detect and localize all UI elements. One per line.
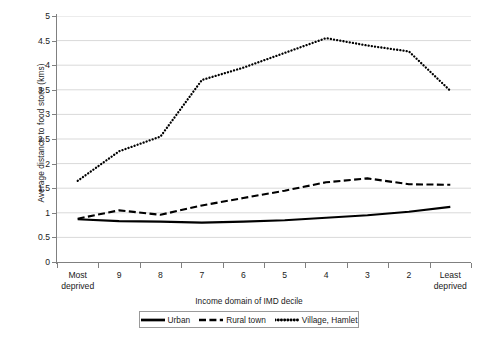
y-tick-mark [52,65,57,66]
y-tick-mark [52,164,57,165]
chart-legend: UrbanRural townVillage, Hamlet [139,311,359,328]
legend-item-label: Urban [168,315,191,325]
x-tick-label: 3 [347,270,388,281]
x-tick-label-line1: 3 [365,270,370,280]
y-tick-mark [52,90,57,91]
x-tick-label: Leastdeprived [430,270,471,291]
y-tick-mark [52,41,57,42]
x-tick-mark [471,263,472,268]
gridlines [57,16,471,237]
x-axis-title: Income domain of IMD decile [0,296,498,306]
x-tick-mark [347,263,348,268]
x-tick-label-line1: 4 [324,270,329,280]
x-tick-label-line2: deprived [57,281,98,292]
legend-item-urban[interactable]: Urban [141,315,191,325]
x-tick-label-line1: 6 [241,270,246,280]
y-tick-mark [52,16,57,17]
legend-swatch-solid-icon [141,316,165,324]
plot-area [57,16,471,262]
y-tick-label: 0 [22,257,50,267]
x-tick-label-line1: 9 [117,270,122,280]
x-tick-mark [430,263,431,268]
legend-item-label: Rural town [226,315,266,325]
x-tick-label-line1: Least [440,270,461,280]
y-tick-mark [52,139,57,140]
legend-item-rural-town[interactable]: Rural town [199,315,266,325]
y-tick-label: 5 [22,11,50,21]
y-tick-label: 1 [22,208,50,218]
y-tick-mark [52,213,57,214]
x-tick-label: 6 [223,270,264,281]
y-tick-mark [52,114,57,115]
x-tick-mark [57,263,58,268]
x-tick-label: 4 [305,270,346,281]
x-tick-label: 9 [98,270,139,281]
x-tick-mark [305,263,306,268]
series-lines [78,38,451,223]
series-line-urban [78,207,451,223]
chart-plot-svg [57,16,471,262]
y-tick-label: 0.5 [22,232,50,242]
x-tick-mark [98,263,99,268]
x-tick-label: 7 [181,270,222,281]
y-tick-label: 4.5 [22,36,50,46]
y-tick-label: 2 [22,159,50,169]
chart-figure: Average distance to food store (kms) 54.… [0,0,498,341]
x-tick-label-line1: Most [68,270,87,280]
y-tick-label: 3 [22,109,50,119]
y-tick-label: 2.5 [22,134,50,144]
x-tick-mark [388,263,389,268]
legend-swatch-dashed-icon [199,316,223,324]
x-tick-label: 8 [140,270,181,281]
x-tick-mark [264,263,265,268]
x-tick-label-line1: 2 [406,270,411,280]
x-tick-label-line1: 8 [158,270,163,280]
x-tick-label: 2 [388,270,429,281]
legend-item-label: Village, Hamlet [302,315,358,325]
y-tick-mark [52,237,57,238]
x-tick-mark [140,263,141,268]
x-tick-label: Mostdeprived [57,270,98,291]
legend-item-village-hamlet[interactable]: Village, Hamlet [275,315,358,325]
y-axis-tick-labels: 54.543.532.521.510.50 [20,0,50,341]
y-tick-label: 4 [22,60,50,70]
x-tick-label: 5 [264,270,305,281]
y-tick-label: 1.5 [22,183,50,193]
y-tick-mark [52,262,57,263]
legend-swatch-dotted-icon [275,316,299,324]
x-tick-mark [223,263,224,268]
y-tick-label: 3.5 [22,85,50,95]
x-tick-label-line1: 5 [282,270,287,280]
x-tick-label-line1: 7 [199,270,204,280]
x-tick-label-line2: deprived [430,281,471,292]
x-tick-mark [181,263,182,268]
y-tick-mark [52,188,57,189]
series-line-village-hamlet [78,38,451,181]
